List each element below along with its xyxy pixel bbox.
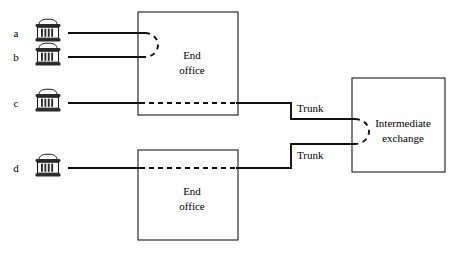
endpoint-label-c: c bbox=[14, 97, 19, 109]
trunk-lower-line bbox=[236, 144, 355, 168]
telephone-icon-d bbox=[36, 154, 61, 176]
trunk-upper-label: Trunk bbox=[297, 102, 324, 114]
telephone-icon-a bbox=[36, 19, 61, 41]
end-office-lower-label-line1: End bbox=[183, 185, 201, 197]
telephone-icon-c bbox=[36, 89, 61, 111]
intermediate-exchange-label-line1: Intermediate bbox=[375, 117, 431, 129]
endpoint-label-a: a bbox=[14, 27, 19, 39]
intermediate-exchange-label-line2: exchange bbox=[382, 132, 424, 144]
end-office-upper-label-line2: office bbox=[179, 64, 205, 76]
endpoint-label-b: b bbox=[13, 51, 19, 63]
telephone-icon-b bbox=[36, 43, 61, 65]
trunk-upper-line bbox=[236, 103, 355, 119]
trunk-lower-label: Trunk bbox=[297, 149, 324, 161]
end-office-upper-label-line1: End bbox=[183, 49, 201, 61]
endpoint-label-d: d bbox=[13, 162, 19, 174]
telephone-network-diagram: a b c d bbox=[0, 0, 461, 254]
diagram-canvas: a b c d bbox=[0, 0, 461, 254]
end-office-lower-label-line2: office bbox=[179, 200, 205, 212]
